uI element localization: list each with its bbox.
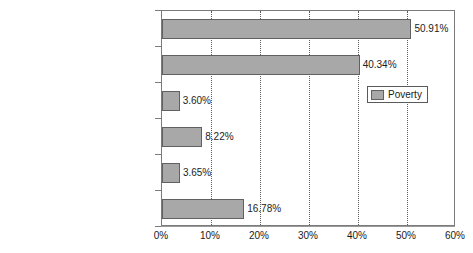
x-axis-tick-label: 40% — [347, 230, 367, 241]
bar — [162, 91, 180, 111]
x-axis-tick-label: 60% — [445, 230, 465, 241]
x-axis-tick-label: 50% — [396, 230, 416, 241]
y-axis-tick — [155, 10, 161, 11]
x-axis-line — [161, 226, 455, 227]
legend: Poverty — [367, 86, 428, 103]
y-axis-tick — [155, 82, 161, 83]
legend-label-poverty: Poverty — [388, 89, 422, 100]
bar — [162, 55, 360, 75]
poverty-bar-chart: 50.91%40.34%3.60%8.22%3.65%16.78% Sub-Sa… — [0, 0, 473, 253]
bar — [162, 199, 244, 219]
x-axis-tick-label: 10% — [200, 230, 220, 241]
x-axis-tick-label: 20% — [249, 230, 269, 241]
bar-value-label: 8.22% — [202, 127, 233, 147]
bar-value-label: 3.65% — [180, 163, 211, 183]
bar-row: 40.34% — [162, 47, 454, 83]
bar-value-label: 40.34% — [360, 55, 397, 75]
bar-value-label: 16.78% — [244, 199, 281, 219]
bar-row: 8.22% — [162, 119, 454, 155]
bar-row: 16.78% — [162, 191, 454, 227]
y-axis-tick — [155, 190, 161, 191]
bar — [162, 127, 202, 147]
plot-area: 50.91%40.34%3.60%8.22%3.65%16.78% — [161, 10, 455, 226]
x-axis-tick-label: 30% — [298, 230, 318, 241]
x-axis-tick-label: 0% — [154, 230, 168, 241]
bar — [162, 19, 411, 39]
bar-row: 3.65% — [162, 155, 454, 191]
bar-value-label: 50.91% — [411, 19, 448, 39]
bar — [162, 163, 180, 183]
bar-row: 50.91% — [162, 11, 454, 47]
y-axis-tick — [155, 46, 161, 47]
bar-value-label: 3.60% — [180, 91, 211, 111]
y-axis-tick — [155, 154, 161, 155]
y-axis-tick — [155, 118, 161, 119]
legend-swatch-poverty — [371, 90, 384, 100]
